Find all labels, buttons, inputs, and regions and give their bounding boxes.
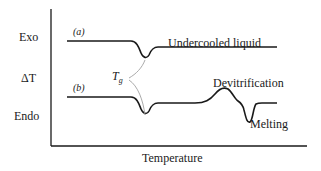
tg-label: Tg	[112, 70, 123, 85]
tg-leader-a	[129, 60, 145, 78]
y-label-delta-t: ΔT	[21, 72, 36, 84]
annotation-devitrification: Devitrification	[213, 77, 284, 89]
y-label-exo: Exo	[19, 31, 38, 43]
curve-b	[67, 88, 277, 122]
x-axis-label: Temperature	[142, 152, 202, 164]
y-label-endo: Endo	[14, 110, 39, 122]
annotation-undercooled-liquid: Undercooled liquid	[168, 37, 261, 49]
tg-sub: g	[119, 76, 123, 85]
curve-a-tag: (a)	[73, 27, 85, 37]
annotation-melting: Melting	[250, 118, 288, 130]
tg-main: T	[112, 69, 119, 83]
curve-b-tag: (b)	[73, 83, 85, 93]
